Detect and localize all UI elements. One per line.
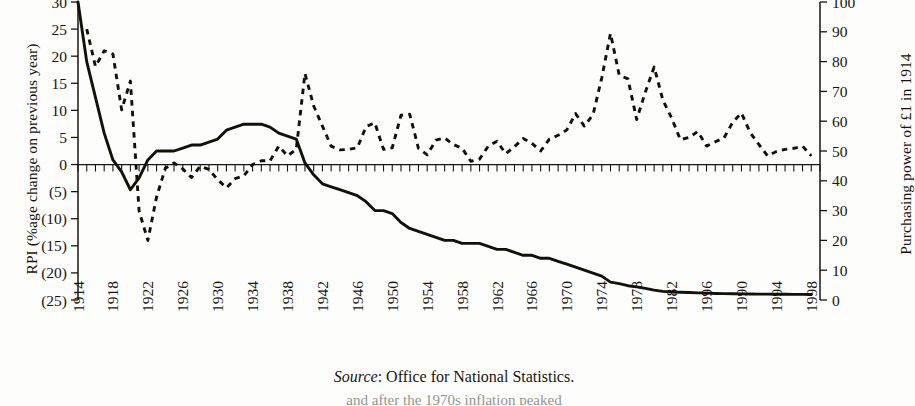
data-series-group: [78, 2, 811, 294]
left-axis-title: RPI (%age change on previous year): [23, 9, 41, 309]
x-tick-label: 1958: [454, 281, 471, 312]
right-axis-title: Purchasing power of £1 in 1914: [897, 4, 915, 304]
right-tick-label: 70: [832, 83, 848, 100]
x-tick-label: 1966: [523, 281, 540, 312]
left-tick-label: 30: [52, 0, 68, 11]
x-tick-label: 1954: [419, 281, 436, 312]
left-tick-label: (5): [49, 183, 67, 201]
right-tick-label: 20: [832, 232, 848, 249]
left-tick-label: (15): [41, 237, 67, 255]
x-tick-label: 1934: [244, 281, 261, 312]
x-tick-label: 1914: [70, 281, 87, 312]
x-tick-label: 1930: [209, 281, 226, 312]
right-tick-label: 50: [832, 143, 848, 160]
x-tick-label: 1942: [314, 281, 331, 312]
x-tick-label: 1982: [663, 281, 680, 312]
right-tick-label: 60: [832, 113, 848, 130]
bottom-axis: 1914191819221926193019341938194219461950…: [70, 165, 821, 312]
x-tick-label: 1974: [593, 281, 610, 312]
x-tick-label: 1990: [733, 281, 750, 312]
x-tick-label: 1946: [349, 281, 366, 312]
source-text: : Office for National Statistics.: [378, 368, 575, 385]
x-tick-label: 1938: [279, 281, 296, 312]
right-tick-label: 100: [832, 0, 856, 11]
left-tick-label: (10): [41, 210, 67, 228]
x-tick-label: 1918: [104, 281, 121, 312]
x-tick-label: 1970: [558, 281, 575, 312]
left-tick-label: (20): [41, 264, 67, 282]
right-tick-label: 30: [832, 202, 848, 219]
right-tick-label: 80: [832, 53, 848, 70]
right-axis: 1009080706050403020100: [820, 0, 856, 309]
left-tick-label: (25): [41, 292, 67, 310]
left-axis: 302520151050(5)(10)(15)(20)(25): [41, 0, 78, 310]
right-tick-label: 40: [832, 172, 848, 189]
source-label: Source: [334, 368, 378, 385]
left-tick-label: 10: [52, 102, 68, 119]
x-tick-label: 1998: [803, 281, 820, 312]
left-tick-label: 25: [52, 21, 68, 38]
x-tick-label: 1950: [384, 281, 401, 312]
right-tick-label: 10: [832, 262, 848, 279]
x-tick-label: 1996: [698, 281, 715, 312]
purchasing-power-series: [78, 2, 811, 294]
x-tick-label: 1962: [489, 281, 506, 312]
left-tick-label: 20: [52, 48, 68, 65]
chart-plot-area: 302520151050(5)(10)(15)(20)(25) 10090807…: [0, 0, 908, 366]
x-tick-label: 1926: [174, 281, 191, 312]
right-tick-label: 90: [832, 23, 848, 40]
rpi-change-series: [87, 29, 812, 240]
right-tick-label: 0: [832, 292, 840, 309]
source-note: Source: Office for National Statistics.: [0, 368, 908, 386]
left-tick-label: 0: [59, 156, 67, 173]
clipped-caption: and after the 1970s inflation peaked: [0, 392, 908, 405]
left-tick-label: 5: [59, 129, 67, 146]
x-tick-label: 1922: [139, 281, 156, 312]
left-tick-label: 15: [52, 75, 68, 92]
x-tick-label: 1994: [768, 281, 785, 312]
